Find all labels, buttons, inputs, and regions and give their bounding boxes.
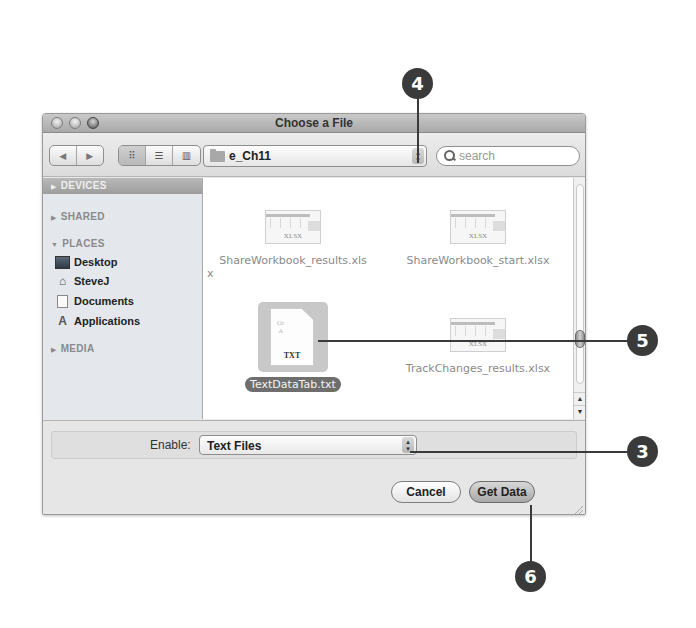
window-title: Choose a File [43,116,585,130]
column-view-button[interactable]: ▥ [173,146,200,165]
callout-badge-3: 3 [627,436,658,467]
search-field[interactable] [436,146,580,166]
cancel-button[interactable]: Cancel [391,481,461,503]
documents-icon [57,295,68,308]
path-popup-label: e_Ch11 [229,149,271,163]
scroll-track[interactable] [576,184,584,384]
sidebar-section-media[interactable]: ▶MEDIA [43,341,202,357]
arrow-down-icon: ▼ [577,408,584,415]
enable-bar: Enable: Text Files ▴▾ [51,431,577,459]
sidebar-item-stevej[interactable]: ⌂SteveJ [55,273,109,289]
disclosure-right-icon: ▶ [51,214,57,221]
icon-view-icon: ⠿ [128,150,135,161]
choose-file-dialog: Choose a File ◀ ▶ ⠿ ☰ ▥ e_Ch11 ▴▾ ▶DEVIC… [42,113,586,515]
resize-grip-icon[interactable] [573,504,583,514]
sidebar-item-documents[interactable]: Documents [55,293,134,309]
back-arrow-icon: ◀ [59,151,66,161]
forward-arrow-icon: ▶ [86,151,93,161]
forward-button[interactable]: ▶ [77,146,103,165]
path-popup[interactable]: e_Ch11 ▴▾ [203,145,427,167]
disclosure-right-icon: ▶ [51,183,57,190]
sidebar-item-applications[interactable]: AApplications [55,313,140,329]
vertical-scrollbar[interactable]: ▲ ▼ [573,178,586,419]
file-name: ShareWorkbook_start.xlsx [388,254,568,267]
file-item-selected[interactable]: OrA TXT TextDataTab.txt [203,302,383,392]
callout-line-4 [417,97,419,163]
back-button[interactable]: ◀ [50,146,77,165]
file-item[interactable]: XLSX TrackChanges_results.xlsx [388,318,568,375]
file-browser: XLSX ShareWorkbook_results.xlsx XLSX Sha… [203,178,573,419]
callout-badge-5: 5 [627,325,658,356]
file-name: ShareWorkbook_results.xlsx [203,254,383,280]
selection-highlight: OrA TXT [258,302,328,372]
disclosure-down-icon: ▼ [51,241,58,248]
view-mode-control: ⠿ ☰ ▥ [118,145,201,166]
folder-icon [210,151,225,162]
dialog-footer: Enable: Text Files ▴▾ Cancel Get Data [43,420,585,515]
toolbar: ◀ ▶ ⠿ ☰ ▥ e_Ch11 ▴▾ [43,133,585,177]
callout-line-3 [410,451,628,453]
home-icon: ⌂ [55,275,70,288]
sidebar-section-devices[interactable]: ▶DEVICES [43,178,202,194]
file-name: TextDataTab.txt [245,377,341,392]
search-icon [444,150,456,162]
sidebar-section-shared[interactable]: ▶SHARED [43,209,202,225]
search-input[interactable] [459,149,569,163]
nav-segmented-control: ◀ ▶ [49,145,104,166]
applications-icon: A [55,315,70,328]
callout-line-6 [530,505,532,563]
sidebar: ▶DEVICES ▶SHARED ▼PLACES Desktop ⌂SteveJ… [43,178,203,419]
scroll-down-button[interactable]: ▼ [574,405,586,417]
file-name: TrackChanges_results.xlsx [388,362,568,375]
enable-label: Enable: [150,438,191,452]
scroll-up-button[interactable]: ▲ [574,392,586,404]
scroll-thumb[interactable] [575,330,585,348]
arrow-up-icon: ▲ [577,395,584,402]
get-data-button[interactable]: Get Data [469,481,535,503]
icon-view-button[interactable]: ⠿ [119,146,146,165]
xlsx-file-icon: XLSX [265,210,321,244]
enable-popup-value: Text Files [207,439,261,453]
list-view-button[interactable]: ☰ [146,146,173,165]
xlsx-file-icon: XLSX [450,210,506,244]
column-view-icon: ▥ [182,150,191,161]
list-view-icon: ☰ [155,150,164,161]
txt-file-icon: OrA TXT [270,308,314,366]
callout-badge-4: 4 [402,68,433,99]
xlsx-file-icon: XLSX [450,318,506,352]
file-item[interactable]: XLSX ShareWorkbook_results.xlsx [203,210,383,280]
sidebar-item-desktop[interactable]: Desktop [55,254,117,270]
enable-popup[interactable]: Text Files ▴▾ [199,435,417,455]
file-item[interactable]: XLSX ShareWorkbook_start.xlsx [388,210,568,267]
title-bar[interactable]: Choose a File [43,114,585,133]
disclosure-right-icon: ▶ [51,346,57,353]
sidebar-section-places[interactable]: ▼PLACES [43,236,202,252]
callout-line-5 [318,340,628,342]
desktop-icon [55,256,70,269]
callout-badge-6: 6 [515,561,546,592]
